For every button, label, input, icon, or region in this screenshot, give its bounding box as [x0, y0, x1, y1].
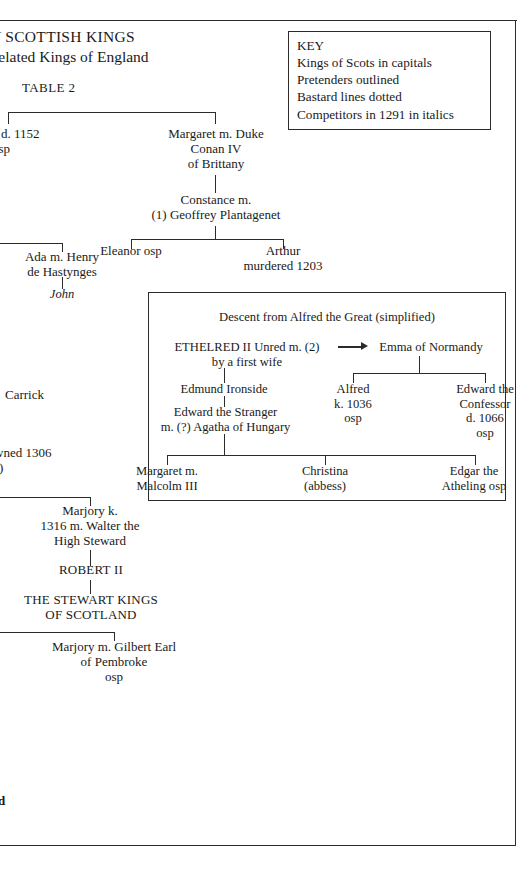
connector-h-marjory-pembroke	[0, 632, 115, 633]
connector-v-ethelred-edmund	[224, 368, 225, 383]
node-john-competitor: John	[22, 287, 102, 302]
node-robert-ii: ROBERT II	[30, 562, 152, 577]
node-christina-abbess: Christina (abbess)	[277, 464, 373, 493]
node-ethelred-ii: ETHELRED II Unred m. (2)	[154, 340, 340, 355]
title-line-2: Related Kings of England	[0, 48, 222, 66]
page-border-top	[0, 20, 517, 21]
key-line-competitors: Competitors in 1291 in italics	[297, 106, 482, 123]
key-line-pretenders: Pretenders outlined	[297, 71, 482, 88]
page-border-bottom	[0, 845, 516, 846]
node-margaret-conan: Margaret m. Duke Conan IV of Brittany	[150, 126, 282, 171]
node-marjory-walter-steward: Marjory k. 1316 m. Walter the High Stewa…	[22, 503, 158, 548]
genealogy-table-page: LY SCOTTISH KINGS Related Kings of Engla…	[0, 0, 529, 871]
table-label: TABLE 2	[0, 80, 222, 96]
node-edward-stranger: Edward the Stranger m. (?) Agatha of Hun…	[153, 405, 298, 434]
node-crowned-1306-sub: s)	[0, 460, 114, 475]
node-ada-hastynges: Ada m. Henry de Hastynges	[7, 249, 117, 279]
node-bottom-fragment: d	[0, 793, 38, 808]
node-marjory-gilbert-pembroke: Marjory m. Gilbert Earl of Pembroke osp	[33, 639, 195, 684]
connector-h-emma-children	[353, 373, 486, 374]
node-crowned-1306: wned 1306	[0, 445, 114, 460]
node-edward-confessor: Edward the Confessor d. 1066 osp	[440, 382, 529, 440]
alfred-box-title: Descent from Alfred the Great (simplifie…	[149, 310, 505, 325]
connector-h-top-siblings	[8, 112, 216, 113]
node-margaret-malcolm-iii: Margaret m. Malcolm III	[110, 464, 224, 493]
node-emma-normandy: Emma of Normandy	[366, 340, 496, 355]
node-edmund-ironside: Edmund Ironside	[160, 382, 288, 397]
page-title: LY SCOTTISH KINGS Related Kings of Engla…	[0, 28, 222, 96]
node-ada-d1152: a d. 1152 osp	[0, 126, 102, 156]
node-stewart-kings: THE STEWART KINGS OF SCOTLAND	[9, 592, 173, 622]
connector-h-stranger-children	[167, 455, 476, 456]
connector-h-constance-children	[131, 239, 284, 240]
key-line-bastard: Bastard lines dotted	[297, 88, 482, 105]
key-heading: KEY	[297, 37, 482, 54]
node-edgar-atheling: Edgar the Atheling osp	[424, 464, 524, 493]
key-line-capitals: Kings of Scots in capitals	[297, 54, 482, 71]
node-alfred-k1036: Alfred k. 1036 osp	[313, 382, 393, 426]
connector-v-constance-down	[215, 226, 216, 240]
connector-v-margaret-constance	[215, 175, 216, 193]
connector-v-stranger-down	[224, 434, 225, 456]
connector-v-margaret	[215, 112, 216, 124]
connector-v-ada1152	[8, 112, 9, 124]
connector-v-emma-down	[419, 356, 420, 374]
node-carrick: Carrick	[5, 387, 115, 402]
connector-h-ada-hastynges	[0, 243, 63, 244]
node-constance: Constance m. (1) Geoffrey Plantagenet	[130, 192, 302, 222]
node-arthur: Arthur murdered 1203	[228, 243, 338, 273]
node-ethelred-first-wife: by a first wife	[154, 355, 340, 370]
key-legend-box: KEY Kings of Scots in capitals Pretender…	[288, 31, 491, 130]
title-line-1: LY SCOTTISH KINGS	[0, 28, 222, 46]
connector-h-marjory-walter	[0, 497, 91, 498]
